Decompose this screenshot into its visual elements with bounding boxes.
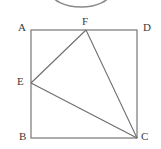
segment-EC <box>31 83 137 138</box>
segment-EF <box>31 30 86 83</box>
vertex-label-E: E <box>17 76 24 87</box>
square-ABDC <box>31 30 137 138</box>
vertex-label-D: D <box>143 22 151 33</box>
vertex-label-A: A <box>18 22 26 33</box>
vertex-label-C: C <box>141 131 148 142</box>
vertex-label-F: F <box>82 16 88 27</box>
segment-FC <box>86 30 137 138</box>
geometry-figure: A D C B E F <box>0 0 161 149</box>
vertex-label-B: B <box>19 131 26 142</box>
partial-ellipse-arc <box>52 0 110 7</box>
